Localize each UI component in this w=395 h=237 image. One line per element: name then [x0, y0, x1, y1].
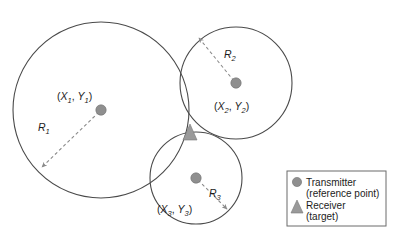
trilateration-diagram: (X1, Y1) R1 (X2, Y2) R2 (X3, Y3) R3 Tran… — [0, 0, 395, 237]
legend-receiver-line2: (target) — [306, 211, 338, 222]
legend-transmitter-line1: Transmitter — [306, 177, 357, 188]
legend-circle-marker-icon — [292, 177, 301, 186]
transmitter-dot-3 — [191, 173, 201, 183]
transmitter-dot-2 — [231, 78, 241, 88]
circle-1-radius-arrow — [42, 112, 99, 167]
legend: Transmitter (reference point) Receiver (… — [287, 171, 386, 226]
circle-2-radius-label: R2 — [224, 48, 237, 63]
circle-1-center-label: (X1, Y1) — [57, 90, 92, 105]
legend-transmitter-line2: (reference point) — [306, 188, 379, 199]
circle-3-center-label: (X3, Y3) — [157, 203, 192, 218]
legend-receiver-line1: Receiver — [306, 200, 346, 211]
transmitter-dot-1 — [96, 105, 106, 115]
circle-2-center-label: (X2, Y2) — [214, 100, 249, 115]
circle-1-radius-label: R1 — [38, 121, 50, 136]
circle-3-radius-label: R3 — [209, 187, 222, 202]
